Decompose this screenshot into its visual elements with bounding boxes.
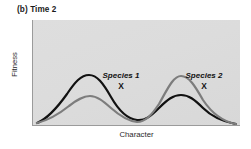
species-2-marker: X — [169, 81, 239, 92]
species-1-label: Species 1 — [86, 71, 156, 81]
annotation-species-1: Species 1 X — [86, 71, 156, 92]
figure-container: (b) Time 2 Species 1 X Species 2 X Fitne… — [0, 0, 251, 149]
x-axis-line — [32, 125, 240, 126]
y-axis-line — [32, 20, 33, 126]
species-2-label: Species 2 — [169, 71, 239, 81]
y-axis-label: Fitness — [10, 37, 19, 93]
species-1-marker: X — [86, 81, 156, 92]
annotation-species-2: Species 2 X — [169, 71, 239, 92]
x-axis-label: Character — [33, 130, 240, 139]
plot-area: Species 1 X Species 2 X — [33, 20, 240, 125]
figure-caption: (b) Time 2 — [17, 4, 57, 15]
